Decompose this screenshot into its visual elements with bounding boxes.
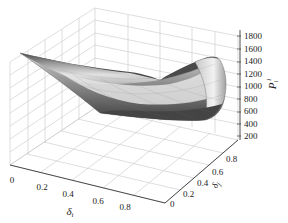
svg-text:1800: 1800 bbox=[244, 31, 263, 41]
svg-text:0: 0 bbox=[10, 175, 15, 185]
svg-text:0.2: 0.2 bbox=[183, 189, 194, 199]
svg-text:Pil: Pil bbox=[265, 79, 280, 91]
svg-text:800: 800 bbox=[244, 94, 258, 104]
surface-chart: 1800 1600 1400 1200 1000 800 600 400 200… bbox=[0, 0, 288, 223]
svg-text:1000: 1000 bbox=[244, 81, 263, 91]
svg-text:0.8: 0.8 bbox=[119, 202, 131, 212]
x-axis-label: δi bbox=[66, 205, 73, 219]
svg-text:600: 600 bbox=[244, 106, 258, 116]
y-axis-label: δj bbox=[210, 179, 223, 190]
z-axis-label: Pil bbox=[265, 79, 280, 91]
svg-text:0.4: 0.4 bbox=[62, 189, 74, 199]
svg-text:200: 200 bbox=[244, 131, 258, 141]
svg-text:0.8: 0.8 bbox=[226, 154, 238, 164]
svg-text:1200: 1200 bbox=[244, 69, 263, 79]
svg-text:0.2: 0.2 bbox=[36, 182, 47, 192]
svg-text:1600: 1600 bbox=[244, 44, 263, 54]
svg-text:1400: 1400 bbox=[244, 56, 263, 66]
svg-text:δj: δj bbox=[210, 179, 223, 190]
svg-text:0.6: 0.6 bbox=[92, 196, 104, 206]
z-tick-labels: 1800 1600 1400 1200 1000 800 600 400 200 bbox=[244, 31, 263, 141]
svg-text:0.6: 0.6 bbox=[212, 167, 224, 177]
svg-text:0: 0 bbox=[170, 199, 175, 209]
y-tick-labels: 0 0.2 0.4 0.6 0.8 bbox=[170, 154, 238, 209]
svg-text:400: 400 bbox=[244, 119, 258, 129]
svg-text:0.4: 0.4 bbox=[197, 178, 209, 188]
